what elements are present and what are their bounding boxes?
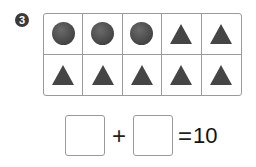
- equals-sign: =: [178, 115, 192, 156]
- answer-box-2[interactable]: [133, 115, 173, 156]
- plus-sign: +: [105, 115, 133, 156]
- problem-number-badge: 3: [15, 13, 29, 27]
- equation-result: 10: [193, 115, 217, 156]
- grid-cell: [202, 14, 241, 55]
- equation: + = 10: [65, 115, 218, 156]
- grid-cell: [83, 14, 122, 55]
- circle-icon: [91, 22, 114, 45]
- grid-cell: [83, 55, 122, 96]
- circle-icon: [130, 22, 153, 45]
- triangle-icon: [210, 24, 232, 44]
- answer-box-1[interactable]: [65, 115, 105, 156]
- grid-cell: [162, 55, 201, 96]
- grid-cell: [44, 14, 83, 55]
- grid-cell: [44, 55, 83, 96]
- ten-frame-grid: [43, 13, 242, 96]
- grid-cell: [162, 14, 201, 55]
- circle-icon: [52, 22, 75, 45]
- grid-cell: [123, 14, 162, 55]
- triangle-icon: [92, 65, 114, 85]
- triangle-icon: [52, 65, 74, 85]
- triangle-icon: [210, 65, 232, 85]
- grid-cell: [123, 55, 162, 96]
- triangle-icon: [170, 24, 192, 44]
- triangle-icon: [131, 65, 153, 85]
- grid-cell: [202, 55, 241, 96]
- triangle-icon: [170, 65, 192, 85]
